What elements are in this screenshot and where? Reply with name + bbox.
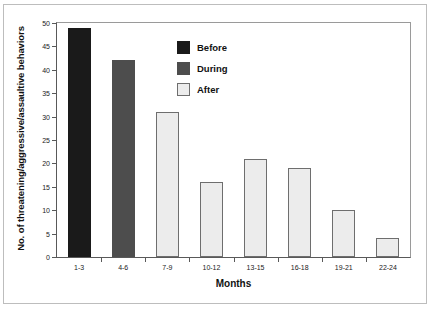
y-axis-tick (52, 163, 57, 164)
y-axis-tick-label: 5 (46, 230, 50, 237)
bar (376, 238, 399, 257)
x-axis-tick (366, 257, 367, 262)
legend-item: Before (177, 41, 228, 54)
y-axis-tick-label: 20 (42, 160, 50, 167)
y-axis-tick (52, 70, 57, 71)
plot-area: 051015202530354045501-34-67-910-1213-151… (57, 23, 410, 257)
y-axis-tick (52, 257, 57, 258)
bar (244, 159, 267, 257)
x-axis-tick-label: 1-3 (74, 264, 84, 271)
y-axis-tick-label: 40 (42, 66, 50, 73)
y-axis-tick-label: 45 (42, 43, 50, 50)
x-axis-tick-label: 22-24 (379, 264, 397, 271)
bar (200, 182, 223, 257)
bar (156, 112, 179, 257)
y-axis-tick (52, 187, 57, 188)
bar (332, 210, 355, 257)
y-axis-tick-label: 30 (42, 113, 50, 120)
x-axis-tick-label: 13-15 (247, 264, 265, 271)
chart-legend: BeforeDuringAfter (177, 41, 228, 104)
y-axis-tick (52, 210, 57, 211)
plot-frame: 051015202530354045501-34-67-910-1213-151… (56, 22, 411, 258)
bar (288, 168, 311, 257)
legend-label: After (197, 84, 219, 95)
x-axis-tick-label: 19-21 (335, 264, 353, 271)
x-axis-title: Months (56, 278, 411, 289)
y-axis-tick (52, 140, 57, 141)
bar (112, 60, 135, 257)
x-axis-tick (322, 257, 323, 262)
legend-label: Before (197, 42, 227, 53)
y-axis-tick-label: 15 (42, 183, 50, 190)
y-axis-tick-label: 35 (42, 90, 50, 97)
legend-swatch-icon (177, 62, 190, 75)
legend-item: During (177, 62, 228, 75)
legend-label: During (197, 63, 228, 74)
x-axis-tick (189, 257, 190, 262)
y-axis-tick (52, 234, 57, 235)
legend-swatch-icon (177, 83, 190, 96)
x-axis-tick (101, 257, 102, 262)
legend-item: After (177, 83, 228, 96)
y-axis-tick-label: 25 (42, 137, 50, 144)
y-axis-title: No. of threatening/aggressive/assaultive… (15, 14, 26, 264)
y-axis-tick-label: 0 (46, 254, 50, 261)
legend-swatch-icon (177, 41, 190, 54)
y-axis-tick (52, 46, 57, 47)
bar (68, 28, 91, 257)
y-axis-tick (52, 93, 57, 94)
x-axis-tick-label: 10-12 (202, 264, 220, 271)
x-axis-tick (145, 257, 146, 262)
figure-bar-chart: No. of threatening/aggressive/assaultive… (0, 0, 430, 311)
x-axis-tick-label: 16-18 (291, 264, 309, 271)
x-axis-tick-label: 4-6 (118, 264, 128, 271)
y-axis-tick-label: 50 (42, 20, 50, 27)
x-axis-tick-label: 7-9 (162, 264, 172, 271)
y-axis-tick (52, 117, 57, 118)
x-axis-tick (234, 257, 235, 262)
y-axis-tick-label: 10 (42, 207, 50, 214)
x-axis-tick (278, 257, 279, 262)
y-axis-tick (52, 23, 57, 24)
